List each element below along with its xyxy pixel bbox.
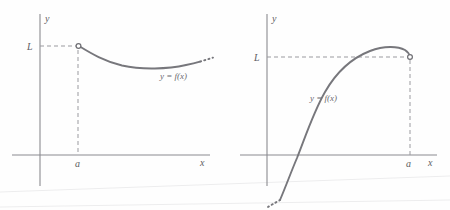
right-point-label: a <box>406 158 411 169</box>
left-function-label: y = f(x) <box>159 71 187 81</box>
figure-canvas: y x L a y = f(x) y x L a y = f(x) <box>0 0 450 210</box>
left-curve <box>79 46 200 68</box>
limit-figure: y x L a y = f(x) y x L a y = f(x) <box>0 0 450 210</box>
left-limit-label: L <box>26 41 33 52</box>
left-curve-dotted-tail <box>200 58 213 62</box>
left-x-axis-label: x <box>199 157 205 168</box>
left-y-axis-label: y <box>44 13 50 24</box>
right-x-axis-label: x <box>427 157 433 168</box>
left-point-label: a <box>75 158 80 169</box>
right-open-endpoint-marker <box>408 55 413 60</box>
right-curve <box>280 47 410 200</box>
right-curve-dotted-tail <box>268 200 280 207</box>
right-y-axis-label: y <box>271 13 277 24</box>
left-panel: y x L a y = f(x) <box>12 13 213 186</box>
page-edge-line <box>0 176 450 192</box>
right-function-label: y = f(x) <box>309 93 337 103</box>
page-edge-line-secondary <box>0 200 450 207</box>
left-open-endpoint-marker <box>76 44 81 49</box>
right-limit-label: L <box>253 52 260 63</box>
